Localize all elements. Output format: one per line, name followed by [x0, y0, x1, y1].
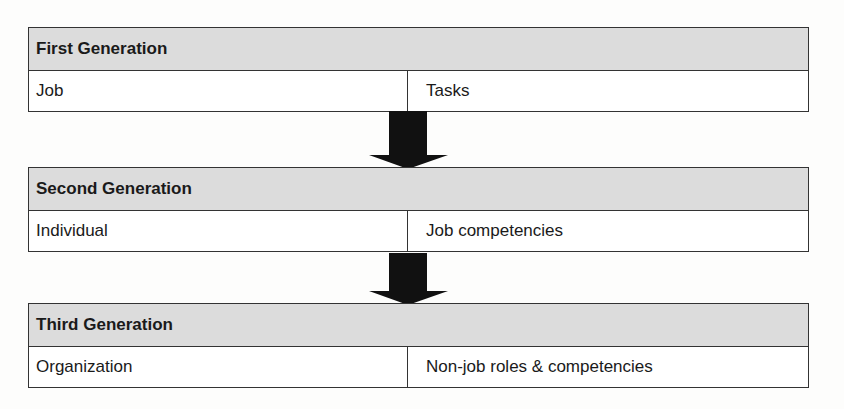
second-generation-basis: Job competencies [408, 211, 808, 251]
first-generation-box: First Generation Job Tasks [28, 27, 809, 112]
down-arrow-icon [369, 253, 448, 305]
third-generation-box: Third Generation Organization Non-job ro… [28, 303, 809, 388]
first-generation-row: Job Tasks [29, 71, 808, 111]
second-generation-box: Second Generation Individual Job compete… [28, 167, 809, 252]
third-generation-row: Organization Non-job roles & competencie… [29, 347, 808, 387]
first-generation-basis: Tasks [408, 71, 808, 111]
third-generation-focus: Organization [29, 347, 408, 387]
third-generation-basis: Non-job roles & competencies [408, 347, 808, 387]
down-arrow-icon [369, 111, 448, 169]
second-generation-row: Individual Job competencies [29, 211, 808, 251]
first-generation-focus: Job [29, 71, 408, 111]
first-generation-title: First Generation [29, 28, 808, 71]
second-generation-focus: Individual [29, 211, 408, 251]
second-generation-title: Second Generation [29, 168, 808, 211]
third-generation-title: Third Generation [29, 304, 808, 347]
